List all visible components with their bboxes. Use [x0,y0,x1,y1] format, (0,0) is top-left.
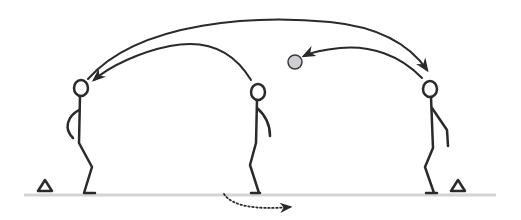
cone-right-icon [451,180,465,191]
player-left-arm [68,110,79,138]
player-middle-arm [257,108,270,136]
diagram-canvas [0,0,521,220]
player-right-arm [432,108,448,146]
player-middle-body [250,100,260,193]
pass-arrow-right-to-ball [304,47,422,78]
pass-arrow-long [88,20,427,79]
pass-arrow-middle-to-left [94,44,251,80]
drill-diagram [0,0,521,220]
ball-icon [288,55,302,69]
player-left-head [74,80,88,96]
cone-left-icon [38,180,52,191]
player-right-figure [423,81,448,193]
player-middle-figure [250,84,270,193]
player-left-body [79,96,95,193]
player-left-figure [68,80,95,193]
player-middle-head [251,84,265,100]
player-right-head [423,81,437,97]
